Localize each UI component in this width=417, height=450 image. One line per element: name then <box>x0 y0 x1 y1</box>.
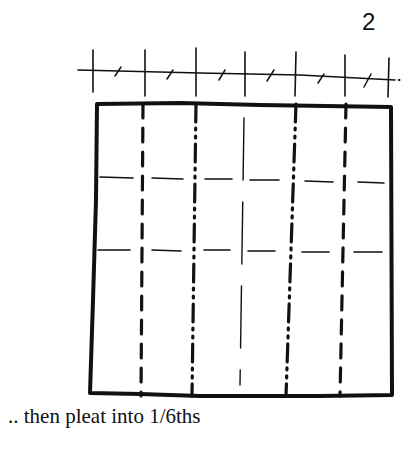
ruler-line <box>78 70 395 80</box>
fold-dashed-2 <box>340 104 346 396</box>
ruler <box>78 48 400 97</box>
fold-dashdot-1 <box>192 104 196 396</box>
fold-dashed-1 <box>141 104 143 396</box>
ruler-major-ticks <box>93 48 389 97</box>
fold-dashdot-2 <box>286 104 296 396</box>
pleat-diagram <box>0 0 417 450</box>
paper-square <box>90 103 392 396</box>
caption: .. then pleat into 1/6ths <box>8 404 200 429</box>
fold-crease-center <box>240 118 244 385</box>
